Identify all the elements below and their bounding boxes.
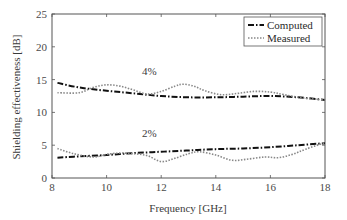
y-tick-label: 20 <box>36 41 48 53</box>
y-axis-label: Shielding effectiveness [dB] <box>10 34 22 159</box>
x-tick-label: 14 <box>210 181 222 193</box>
legend-computed-label: Computed <box>267 19 313 31</box>
x-axis-label: Frequency [GHz] <box>149 202 226 214</box>
x-tick-label: 12 <box>156 181 167 193</box>
y-tick-label: 5 <box>42 139 48 151</box>
legend-measured-label: Measured <box>267 32 311 44</box>
y-tick-label: 25 <box>36 8 48 20</box>
y-tick-label: 10 <box>36 106 48 118</box>
x-tick-label: 10 <box>101 181 113 193</box>
x-tick-label: 16 <box>265 181 277 193</box>
legend: Computed Measured <box>244 17 322 46</box>
y-tick-label: 0 <box>42 172 48 184</box>
computed-2pct-line <box>57 143 325 157</box>
x-tick-label: 8 <box>49 181 55 193</box>
annotation-4-percent: 4% <box>142 65 157 77</box>
shielding-chart: 810121416180510152025 4% 2% Computed Mea… <box>0 0 347 220</box>
annotation-2-percent: 2% <box>142 127 157 139</box>
y-tick-label: 15 <box>36 74 48 86</box>
x-tick-label: 18 <box>320 181 332 193</box>
computed-4pct-line <box>57 83 325 100</box>
data-series <box>57 83 325 162</box>
